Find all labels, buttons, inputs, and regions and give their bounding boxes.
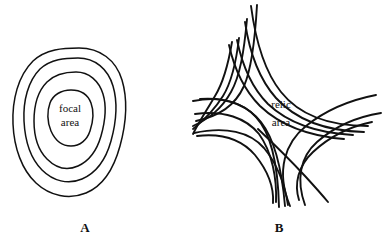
panel-b-area-label-line1: relic	[271, 98, 291, 110]
diagram-canvas: focalareaA relicareaB	[0, 0, 386, 243]
panel-b-caption: B	[275, 220, 284, 235]
panel-a-caption: A	[80, 220, 90, 235]
panel-a-area-label-line1: focal	[59, 102, 81, 114]
panel-a-area-label-line2: area	[61, 116, 79, 128]
panel-b-area-label-line2: area	[272, 116, 290, 128]
figure-root: focalareaA relicareaB	[0, 0, 386, 243]
